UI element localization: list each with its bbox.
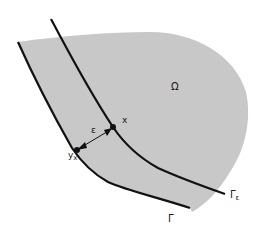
- point-x: [110, 124, 116, 130]
- omega-label: Ω: [171, 82, 179, 92]
- gamma-epsilon-label: Γε: [230, 190, 239, 202]
- yx-label: yx: [68, 151, 77, 162]
- diagram-canvas: Ω x ε yx Γε Γ: [0, 0, 261, 238]
- gamma-epsilon-label-sub: ε: [236, 194, 240, 202]
- epsilon-label: ε: [91, 126, 96, 135]
- diagram-svg: [0, 0, 261, 238]
- x-label: x: [122, 116, 127, 125]
- yx-label-sub: x: [73, 154, 77, 162]
- gamma-label: Γ: [168, 214, 174, 224]
- omega-region: [18, 32, 248, 212]
